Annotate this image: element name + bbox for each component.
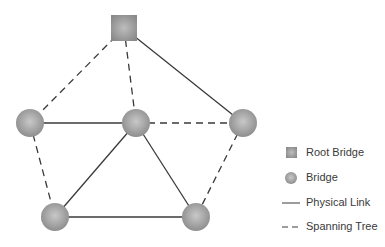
spanning-tree-link-right-bottom-right (196, 123, 243, 217)
physical-link-root-right (124, 28, 243, 123)
spanning-tree-link-root-center (124, 28, 136, 123)
spanning-tree-link-left-bottom-left (30, 123, 55, 217)
bridge-node-left (16, 109, 44, 137)
root-bridge-node (111, 15, 137, 41)
legend-label-bridge: Bridge (306, 171, 338, 183)
legend-icons (282, 147, 300, 227)
bridge-node-bottom-right (182, 203, 210, 231)
bridge-node-right (229, 109, 257, 137)
legend-label-root-bridge: Root Bridge (306, 146, 364, 158)
bridge-node-bottom-left (41, 203, 69, 231)
legend-label-spanning-tree: Spanning Tree (306, 220, 378, 232)
root-bridge-square-icon (286, 147, 297, 158)
bridge-circle-icon (285, 172, 297, 184)
physical-link-center-bottom-left (55, 123, 136, 217)
spanning-tree-link-root-left (30, 28, 124, 123)
network-diagram (0, 0, 385, 247)
bridge-node-center (122, 109, 150, 137)
physical-link-center-bottom-right (136, 123, 196, 217)
legend-label-physical-link: Physical Link (306, 196, 370, 208)
